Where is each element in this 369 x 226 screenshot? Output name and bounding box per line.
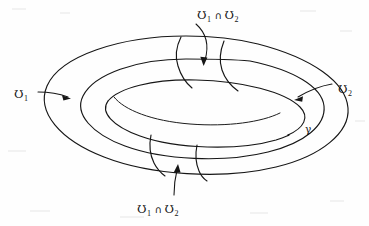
top-intersection-arrow	[196, 24, 207, 66]
u1-subscript: 1	[24, 94, 30, 103]
u2-subscript: 2	[348, 89, 354, 98]
u2-symbol: Ʊ	[338, 82, 348, 96]
tube-inner-top-curve	[81, 59, 324, 159]
top-intersection-arrow-shaft	[196, 24, 207, 60]
top-u2-symbol: Ʊ	[224, 8, 234, 22]
label-top-intersection: Ʊ1∩Ʊ2	[197, 6, 240, 24]
top-u2-subscript: 2	[234, 15, 240, 24]
label-u1: Ʊ1	[14, 85, 29, 103]
label-bottom-intersection: Ʊ1∩Ʊ2	[137, 200, 180, 218]
bottom-u1-symbol: Ʊ	[137, 202, 147, 216]
bottom-intersection-arrow	[173, 164, 180, 195]
bottom-u2-symbol: Ʊ	[164, 202, 174, 216]
label-u2: Ʊ2	[338, 80, 353, 98]
top-intersection-operator: ∩	[212, 10, 224, 21]
torus-hole-outline	[106, 80, 305, 147]
u2-arrow-shaft	[298, 84, 332, 97]
bottom-intersection-arrow-head	[173, 164, 180, 173]
u1-symbol: Ʊ	[14, 87, 24, 101]
hole-upper-lip-curve	[108, 80, 305, 135]
bottom-u2-subscript: 2	[174, 209, 180, 218]
bottom-intersection-operator: ∩	[152, 204, 164, 215]
bottom-intersection-arrow-shaft	[174, 170, 177, 195]
hole-inner-wall-stub	[114, 97, 280, 125]
top-intersection-arrow-head	[200, 57, 207, 66]
torus-figure: Ʊ1∩Ʊ2 Ʊ1∩Ʊ2 Ʊ1 Ʊ2 γ	[0, 0, 369, 226]
gamma-symbol: γ	[305, 123, 311, 135]
torus-drawing	[0, 0, 369, 226]
bottom-meridian-right	[196, 145, 207, 181]
top-u1-symbol: Ʊ	[197, 8, 207, 22]
u1-arrow	[38, 92, 71, 101]
label-gamma: γ	[305, 120, 311, 136]
